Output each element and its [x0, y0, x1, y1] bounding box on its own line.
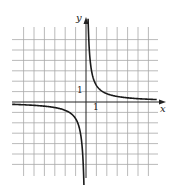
x-tick-label: 1 [93, 103, 99, 112]
y-axis-label: y [76, 13, 82, 23]
curve-left-branch [12, 104, 84, 185]
hyperbola-graph [0, 0, 176, 185]
y-tick-label: 1 [77, 86, 83, 95]
curve-right-branch [88, 19, 157, 100]
x-axis-label: x [160, 104, 166, 114]
